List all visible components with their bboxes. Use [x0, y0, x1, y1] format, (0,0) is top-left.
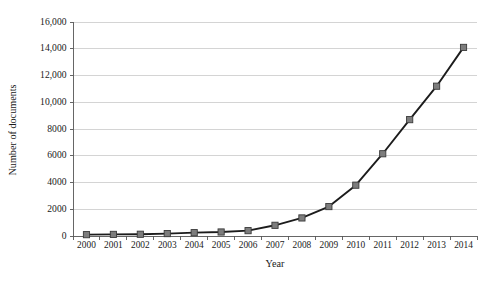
x-tick-label: 2000 — [77, 240, 96, 250]
x-tick-label: 2006 — [239, 240, 258, 250]
line-chart: 0200040006000800010,00012,00014,00016,00… — [0, 0, 490, 281]
y-tick-label: 10,000 — [40, 96, 67, 107]
data-series-markers — [83, 44, 466, 237]
x-tick-label: 2003 — [158, 240, 177, 250]
data-point-marker — [299, 215, 305, 221]
chart-container: 0200040006000800010,00012,00014,00016,00… — [0, 0, 490, 281]
data-point-marker — [245, 228, 251, 234]
data-point-marker — [137, 231, 143, 237]
data-point-marker — [218, 229, 224, 235]
gridlines-group — [73, 22, 477, 209]
x-tick-label: 2011 — [374, 240, 393, 250]
x-tick-label: 2010 — [346, 240, 365, 250]
x-axis-title: Year — [266, 258, 285, 269]
data-point-marker — [380, 151, 386, 157]
data-point-marker — [110, 231, 116, 237]
data-point-marker — [460, 44, 466, 50]
data-point-marker — [272, 222, 278, 228]
x-tick-label: 2001 — [104, 240, 123, 250]
x-tick-label: 2005 — [212, 240, 231, 250]
y-tick-label: 14,000 — [40, 42, 67, 53]
data-point-marker — [191, 230, 197, 236]
x-tick-label: 2013 — [427, 240, 446, 250]
x-axis-tick-labels: 2000200120022003200420052006200720082009… — [77, 240, 473, 250]
data-point-marker — [353, 182, 359, 188]
y-tick-label: 12,000 — [40, 69, 67, 80]
data-point-marker — [434, 83, 440, 89]
x-tick-label: 2009 — [319, 240, 338, 250]
data-point-marker — [83, 232, 89, 238]
y-axis-tick-labels: 0200040006000800010,00012,00014,00016,00… — [40, 16, 67, 241]
y-axis-tick-marks — [70, 22, 74, 236]
data-point-marker — [164, 230, 170, 236]
y-axis-title: Number of documents — [7, 84, 18, 175]
y-tick-label: 6000 — [47, 149, 66, 160]
x-tick-label: 2002 — [131, 240, 150, 250]
y-tick-label: 8000 — [47, 123, 66, 134]
y-tick-label: 16,000 — [40, 16, 67, 27]
x-tick-label: 2007 — [266, 240, 285, 250]
y-tick-label: 2000 — [47, 203, 66, 214]
x-tick-label: 2008 — [293, 240, 312, 250]
y-tick-label: 4000 — [47, 176, 66, 187]
data-point-marker — [407, 117, 413, 123]
x-tick-label: 2012 — [400, 240, 419, 250]
x-tick-label: 2004 — [185, 240, 204, 250]
y-tick-label: 0 — [62, 230, 67, 241]
data-point-marker — [326, 203, 332, 209]
x-tick-label: 2014 — [454, 240, 473, 250]
